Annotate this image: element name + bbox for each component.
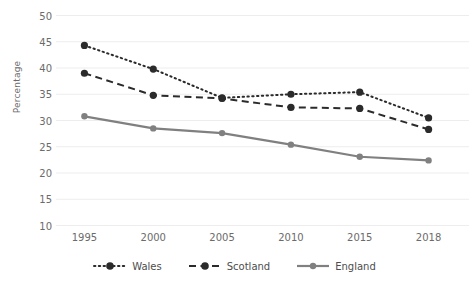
data-point-wales-2015 xyxy=(356,89,363,96)
legend-label-england: England xyxy=(335,261,376,272)
data-point-england-2018 xyxy=(425,157,431,163)
data-point-wales-2010 xyxy=(287,91,294,98)
x-axis-tick-1995: 1995 xyxy=(72,232,97,243)
legend-item-england[interactable]: England xyxy=(296,260,376,272)
gridlines xyxy=(56,16,469,226)
data-point-scotland-1995 xyxy=(81,70,88,77)
data-point-scotland-2018 xyxy=(425,126,432,133)
data-point-england-1995 xyxy=(81,113,87,119)
data-point-scotland-2010 xyxy=(287,104,294,111)
x-axis-tick-2005: 2005 xyxy=(209,232,234,243)
data-point-scotland-2005 xyxy=(218,95,225,102)
legend-item-scotland[interactable]: Scotland xyxy=(188,260,270,272)
data-point-england-2015 xyxy=(357,154,363,160)
data-point-england-2010 xyxy=(288,141,294,147)
data-point-england-2005 xyxy=(219,130,225,136)
series-scotland xyxy=(81,70,432,133)
data-point-england-2000 xyxy=(150,125,156,131)
data-point-wales-1995 xyxy=(81,42,88,49)
series-wales xyxy=(81,42,432,122)
x-axis-tick-labels: 199520002005201020152018 xyxy=(0,232,469,248)
series-line-wales xyxy=(84,45,428,117)
x-axis-tick-2018: 2018 xyxy=(416,232,441,243)
data-point-scotland-2000 xyxy=(150,92,157,99)
line-chart: Percentage 504540353025201510 1995200020… xyxy=(0,0,469,281)
x-axis-tick-2010: 2010 xyxy=(278,232,303,243)
legend-label-wales: Wales xyxy=(132,261,162,272)
chart-legend: WalesScotlandEngland xyxy=(0,255,469,277)
legend-label-scotland: Scotland xyxy=(227,261,270,272)
legend-marker-wales xyxy=(93,260,127,272)
data-point-wales-2000 xyxy=(150,65,157,72)
x-axis-tick-2000: 2000 xyxy=(141,232,166,243)
x-axis-tick-2015: 2015 xyxy=(347,232,372,243)
legend-marker-england xyxy=(296,260,330,272)
data-point-scotland-2015 xyxy=(356,105,363,112)
legend-marker-scotland xyxy=(188,260,222,272)
series-line-england xyxy=(84,116,428,160)
legend-item-wales[interactable]: Wales xyxy=(93,260,162,272)
data-point-wales-2018 xyxy=(425,114,432,121)
